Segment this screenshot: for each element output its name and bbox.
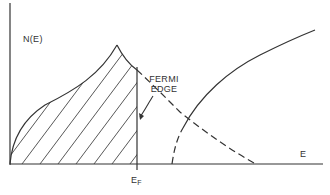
fermi-label-line1: FERMI: [144, 74, 184, 84]
fermi-edge-label: FERMI EDGE: [144, 74, 184, 94]
fermi-energy-label: EF: [131, 175, 142, 188]
upper-band-dashed: [172, 128, 183, 164]
density-of-states-diagram: [0, 0, 330, 195]
x-axis-label: E: [300, 149, 306, 159]
fermi-energy-subscript: F: [137, 179, 142, 186]
fermi-edge-arrow: [140, 96, 153, 117]
dos-curve-rising: [10, 45, 117, 164]
fermi-label-line2: EDGE: [144, 84, 184, 94]
y-axis-label: N(E): [23, 34, 43, 44]
upper-band-curve: [183, 30, 315, 128]
